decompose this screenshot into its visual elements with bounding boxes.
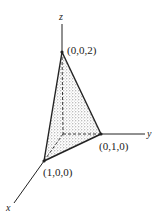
vertex-label-z: (0,0,2) [67,44,97,57]
x-axis-label: x [5,202,11,213]
tetrahedron-diagram: z y x (0,0,2) (0,1,0) (1,0,0) [0,0,161,221]
vertex-z [60,50,63,53]
x-axis [14,161,44,203]
z-axis-label: z [58,11,63,22]
vertex-y [99,132,102,135]
y-axis-label: y [146,128,152,139]
vertex-x [42,159,45,162]
vertex-label-y: (0,1,0) [99,140,129,153]
vertex-label-x: (1,0,0) [43,166,73,179]
